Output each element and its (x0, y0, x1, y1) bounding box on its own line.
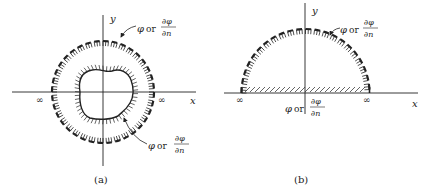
infinity-left-a: ∞ (36, 95, 44, 105)
svg-text:∂φ: ∂φ (311, 97, 321, 106)
panel-a: y x ∞ ∞ φ or ∂φ ∂n φ or ∂φ ∂n (a) (12, 13, 196, 185)
svg-text:or: or (146, 24, 156, 34)
svg-text:∂n: ∂n (311, 109, 320, 118)
svg-text:∂n: ∂n (175, 146, 184, 155)
semicircle-boundary (242, 29, 370, 93)
svg-text:φ: φ (137, 23, 144, 34)
caption-b: (b) (294, 174, 308, 185)
svg-text:∂φ: ∂φ (175, 134, 185, 143)
svg-text:∂φ: ∂φ (364, 18, 374, 27)
svg-text:or: or (294, 104, 304, 114)
infinity-right-b: ∞ (363, 95, 371, 105)
outer-boundary-label: φ or ∂φ ∂n (137, 17, 176, 38)
arc-boundary-label: φ or ∂φ ∂n (340, 18, 378, 39)
infinity-right-a: ∞ (158, 95, 166, 105)
y-axis-label-b: y (311, 5, 318, 16)
svg-text:φ: φ (148, 140, 155, 151)
svg-text:or: or (157, 141, 167, 151)
x-axis-label-b: x (412, 98, 418, 109)
arc-label-arrow (330, 28, 340, 35)
inner-boundary-label: φ or ∂φ ∂n (148, 134, 189, 155)
caption-a: (a) (94, 174, 108, 185)
svg-text:φ: φ (340, 24, 347, 35)
svg-text:∂n: ∂n (162, 29, 171, 38)
x-axis-label-a: x (190, 95, 196, 106)
svg-text:or: or (349, 25, 359, 35)
figure-canvas: y x ∞ ∞ φ or ∂φ ∂n φ or ∂φ ∂n (a) y (0, 0, 425, 196)
outer-label-arrow (121, 26, 136, 37)
svg-text:∂φ: ∂φ (162, 17, 172, 26)
svg-text:∂n: ∂n (364, 30, 373, 39)
svg-text:φ: φ (285, 103, 292, 114)
panel-b: y x ∞ ∞ φ or ∂φ ∂n φ or ∂φ ∂n (b) (224, 3, 418, 185)
y-axis-label-a: y (109, 13, 116, 24)
inner-boundary-ticks (75, 65, 138, 124)
infinity-left-b: ∞ (236, 95, 244, 105)
